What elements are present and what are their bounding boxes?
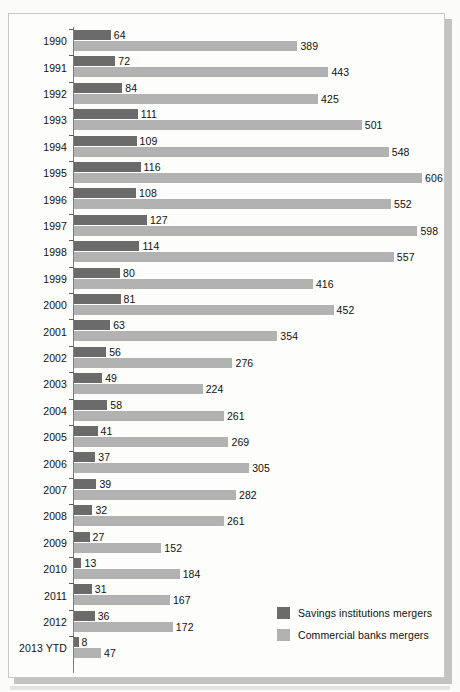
bar-commercial-banks[interactable] [74,595,170,605]
category-label: 2008 [9,510,67,522]
bar-value-label: 354 [280,330,298,342]
bar-commercial-banks[interactable] [74,411,224,421]
bar-value-label: 305 [252,462,270,474]
bar-track: 152 [74,543,161,553]
bar-group: 41269 [74,424,444,450]
bar-savings-institutions[interactable] [74,505,92,515]
bar-track: 108 [74,188,136,198]
bar-group: 81452 [74,292,444,318]
bar-value-label: 276 [235,357,253,369]
bar-commercial-banks[interactable] [74,279,313,289]
bar-track: 111 [74,109,138,119]
bar-commercial-banks[interactable] [74,463,249,473]
bar-savings-institutions[interactable] [74,347,106,357]
bar-group: 37305 [74,450,444,476]
bar-savings-institutions[interactable] [74,109,138,119]
bar-savings-institutions[interactable] [74,162,141,172]
page-bottom-edge [10,686,450,690]
bar-group: 72443 [74,54,444,80]
legend-item[interactable]: Savings institutions mergers [277,606,437,619]
bar-value-label: 72 [118,55,130,67]
bar-commercial-banks[interactable] [74,147,389,157]
bar-commercial-banks[interactable] [74,67,328,77]
bar-group: 13184 [74,556,444,582]
category-label: 1991 [9,62,67,74]
bar-track: 72 [74,56,115,66]
legend-item[interactable]: Commercial banks mergers [277,628,437,641]
bar-value-label: 36 [98,610,110,622]
bar-row: 200637305 [9,450,444,476]
bar-savings-institutions[interactable] [74,268,120,278]
bar-track: 425 [74,94,318,104]
bar-group: 80416 [74,266,444,292]
category-label: 2001 [9,326,67,338]
bar-value-label: 557 [397,251,415,263]
bar-commercial-banks[interactable] [74,543,161,553]
bar-commercial-banks[interactable] [74,94,318,104]
bar-track: 37 [74,452,95,462]
bar-savings-institutions[interactable] [74,136,137,146]
bar-savings-institutions[interactable] [74,373,102,383]
bar-commercial-banks[interactable] [74,437,228,447]
bar-savings-institutions[interactable] [74,30,111,40]
bar-commercial-banks[interactable] [74,331,277,341]
bar-value-label: 261 [227,515,245,527]
bar-track: 32 [74,505,92,515]
bar-savings-institutions[interactable] [74,215,147,225]
bar-value-label: 58 [110,399,122,411]
bar-group: 58261 [74,398,444,424]
bar-savings-institutions[interactable] [74,637,79,647]
bar-commercial-banks[interactable] [74,226,417,236]
bar-savings-institutions[interactable] [74,611,95,621]
bar-commercial-banks[interactable] [74,622,173,632]
bar-commercial-banks[interactable] [74,516,224,526]
bar-value-label: 443 [331,66,349,78]
category-label: 1996 [9,194,67,206]
bar-savings-institutions[interactable] [74,452,95,462]
bar-savings-institutions[interactable] [74,479,96,489]
bar-commercial-banks[interactable] [74,358,232,368]
bar-commercial-banks[interactable] [74,252,394,262]
bar-value-label: 172 [176,621,194,633]
bar-value-label: 80 [123,267,135,279]
bar-savings-institutions[interactable] [74,400,107,410]
bar-commercial-banks[interactable] [74,490,236,500]
bar-savings-institutions[interactable] [74,83,122,93]
bar-row: 1993111501 [9,107,444,133]
bar-row: 1994109548 [9,134,444,160]
bar-savings-institutions[interactable] [74,56,115,66]
chart-legend: Savings institutions mergersCommercial b… [277,606,437,650]
category-label: 1999 [9,273,67,285]
category-label: 2005 [9,431,67,443]
bar-savings-institutions[interactable] [74,558,81,568]
bar-commercial-banks[interactable] [74,648,101,658]
bar-commercial-banks[interactable] [74,569,180,579]
bar-group: 108552 [74,186,444,212]
bar-savings-institutions[interactable] [74,320,110,330]
bar-track: 109 [74,136,137,146]
bar-track: 47 [74,648,101,658]
bar-track: 84 [74,83,122,93]
bar-commercial-banks[interactable] [74,41,297,51]
bar-row: 201131167 [9,582,444,608]
bar-value-label: 32 [95,504,107,516]
bar-commercial-banks[interactable] [74,384,203,394]
bar-savings-institutions[interactable] [74,294,121,304]
bar-row: 200081452 [9,292,444,318]
bar-commercial-banks[interactable] [74,305,334,315]
page-background: 1990643891991724431992844251993111501199… [0,0,460,692]
bar-savings-institutions[interactable] [74,532,90,542]
bar-savings-institutions[interactable] [74,241,139,251]
bar-commercial-banks[interactable] [74,173,422,183]
category-label: 2006 [9,458,67,470]
bar-savings-institutions[interactable] [74,188,136,198]
bar-savings-institutions[interactable] [74,584,92,594]
category-label: 2004 [9,405,67,417]
bar-commercial-banks[interactable] [74,120,362,130]
bar-value-label: 114 [142,240,159,252]
bar-savings-institutions[interactable] [74,426,98,436]
bar-value-label: 37 [98,451,110,463]
bar-value-label: 282 [239,489,257,501]
bar-track: 63 [74,320,110,330]
bar-commercial-banks[interactable] [74,199,391,209]
